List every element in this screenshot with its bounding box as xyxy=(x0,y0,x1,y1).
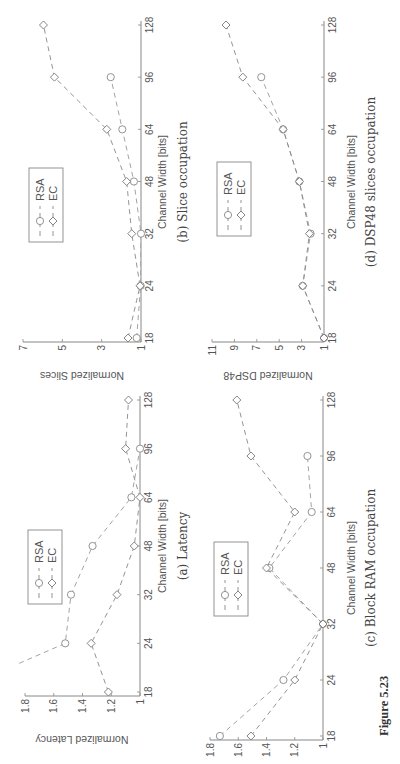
y-tick-label: 1.2 xyxy=(289,743,300,757)
x-tick-label: 48 xyxy=(326,562,337,574)
x-tick-label: 128 xyxy=(143,391,154,408)
circle-marker-icon xyxy=(304,452,311,459)
legend: RSAEC xyxy=(29,168,63,242)
x-tick-label: 18 xyxy=(143,686,154,698)
x-tick-label: 32 xyxy=(143,589,154,601)
legend-label: EC xyxy=(47,186,59,201)
x-tick-label: 32 xyxy=(327,228,338,240)
y-tick-label: 5 xyxy=(57,345,68,351)
x-tick-label: 48 xyxy=(144,176,155,188)
y-tick-label: 1 xyxy=(319,345,330,351)
legend-label: RSA xyxy=(219,552,231,575)
circle-marker-icon xyxy=(137,230,144,237)
x-axis-label: Channel Width [bits] xyxy=(156,135,168,229)
legend-label: RSA xyxy=(34,178,46,201)
x-tick-label: 128 xyxy=(144,16,155,33)
x-tick-label: 96 xyxy=(326,450,337,462)
x-tick-label: 18 xyxy=(144,332,155,344)
y-tick-label: 1 xyxy=(318,743,329,749)
x-tick-label: 18 xyxy=(326,730,337,742)
y-tick-label: 5 xyxy=(274,345,285,351)
circle-marker-icon xyxy=(280,676,287,683)
x-tick-label: 32 xyxy=(326,618,337,630)
diamond-marker-icon xyxy=(233,396,241,404)
chart-caption: (c) Block RAM occupation xyxy=(364,489,378,647)
diamond-marker-icon xyxy=(39,21,47,29)
diamond-marker-icon xyxy=(87,639,95,647)
diamond-marker-icon xyxy=(239,73,247,81)
y-tick-label: 11 xyxy=(207,345,218,356)
x-tick-label: 64 xyxy=(326,506,337,518)
legend-label: RSA xyxy=(33,540,45,563)
diamond-marker-icon xyxy=(247,732,255,740)
y-tick-label: 7 xyxy=(18,345,29,351)
legend: RSAEC xyxy=(214,542,248,616)
chart-dsp48: 1824324864961281357911RSAEC Normalized D… xyxy=(200,0,400,382)
x-tick-label: 64 xyxy=(327,123,338,135)
y-axis-label: Normalized Latency xyxy=(36,734,129,746)
circle-marker-icon xyxy=(133,334,140,341)
diamond-marker-icon xyxy=(50,73,58,81)
circle-marker-icon xyxy=(130,178,137,185)
diamond-marker-icon xyxy=(124,334,132,342)
y-tick-label: 1.8 xyxy=(20,699,31,713)
chart-latency-plot: 18243248649612811.21.41.61.8RSAEC xyxy=(0,382,200,764)
y-tick-label: 1.4 xyxy=(77,699,88,713)
circle-marker-icon xyxy=(62,640,69,647)
series-rsa xyxy=(0,445,144,692)
x-tick-label: 128 xyxy=(326,391,337,408)
circle-marker-icon xyxy=(128,494,135,501)
circle-marker-icon xyxy=(119,126,126,133)
x-tick-label: 96 xyxy=(327,71,338,83)
circle-marker-icon xyxy=(36,217,43,224)
series-rsa xyxy=(107,74,144,342)
y-tick-label: 1 xyxy=(135,699,146,705)
x-tick-label: 128 xyxy=(327,16,338,33)
x-tick-label: 64 xyxy=(144,123,155,135)
x-tick-label: 24 xyxy=(143,637,154,649)
x-tick-label: 48 xyxy=(327,176,338,188)
x-tick-label: 24 xyxy=(327,280,338,292)
y-tick-label: 9 xyxy=(229,345,240,351)
y-axis-label: Normalized Slices xyxy=(40,370,124,382)
x-tick-label: 64 xyxy=(143,491,154,503)
chart-caption: (b) Slice occupation xyxy=(176,121,190,242)
diamond-marker-icon xyxy=(130,542,138,550)
diamond-marker-icon xyxy=(128,230,136,238)
y-tick-label: 1.4 xyxy=(261,743,272,757)
x-axis-label: Channel Width [bits] xyxy=(345,135,357,229)
diamond-marker-icon xyxy=(125,396,133,404)
y-tick-label: 3 xyxy=(296,345,307,351)
figure-caption: Figure 5.23 xyxy=(377,676,392,736)
circle-marker-icon xyxy=(136,445,143,452)
circle-marker-icon xyxy=(107,74,114,81)
y-tick-label: 1.6 xyxy=(48,699,59,713)
y-tick-label: 1 xyxy=(136,345,147,351)
chart-slices-plot: 1824324864961281357RSAEC xyxy=(0,0,200,382)
chart-bram: 18243248649612811.21.41.61.8RSAEC Normal… xyxy=(200,382,400,764)
y-tick-label: 1.2 xyxy=(106,699,117,713)
x-tick-label: 18 xyxy=(327,332,338,344)
chart-caption: (d) DSP48 slices occupation xyxy=(364,97,378,267)
diamond-marker-icon xyxy=(291,676,299,684)
x-tick-label: 32 xyxy=(144,228,155,240)
y-tick-label: 1.6 xyxy=(233,743,244,757)
circle-marker-icon xyxy=(221,591,228,598)
series-rsa xyxy=(258,74,328,342)
legend: RSAEC xyxy=(28,530,62,604)
circle-marker-icon xyxy=(308,508,315,515)
y-tick-label: 7 xyxy=(251,345,262,351)
circle-marker-icon xyxy=(89,542,96,549)
legend-label: RSA xyxy=(222,172,234,195)
diamond-marker-icon xyxy=(123,178,131,186)
x-tick-label: 24 xyxy=(144,280,155,292)
x-axis-label: Channel Width [bits] xyxy=(345,521,357,615)
legend-label: EC xyxy=(235,180,247,195)
circle-marker-icon xyxy=(258,74,265,81)
circle-marker-icon xyxy=(216,732,223,739)
y-axis-label: Normalized DSP48 xyxy=(223,370,312,382)
x-tick-label: 48 xyxy=(143,540,154,552)
chart-slices: 1824324864961281357RSAEC Normalized Slic… xyxy=(0,0,200,382)
circle-marker-icon xyxy=(35,579,42,586)
diamond-marker-icon xyxy=(113,591,121,599)
